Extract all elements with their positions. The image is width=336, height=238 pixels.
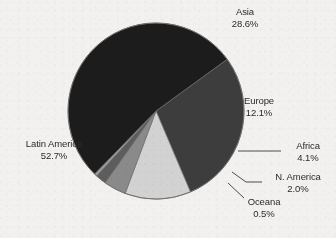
pie-chart: Asia 28.6% Europe 12.1% Africa 4.1% N. A… xyxy=(0,0,336,238)
slice-label-africa-name: Africa xyxy=(283,140,333,152)
slice-label-latin-america-value: 52.7% xyxy=(8,150,100,162)
slice-label-oceana-value: 0.5% xyxy=(238,208,290,220)
slice-label-latin-america-name: Latin America xyxy=(8,138,100,150)
slice-label-latin-america: Latin America 52.7% xyxy=(8,138,100,161)
slice-label-africa: Africa 4.1% xyxy=(283,140,333,163)
slice-label-n-america-value: 2.0% xyxy=(262,183,334,195)
slice-label-asia-name: Asia xyxy=(212,6,278,18)
slice-label-oceana: Oceana 0.5% xyxy=(238,196,290,219)
slice-label-europe-name: Europe xyxy=(228,95,290,107)
pie-slice-group xyxy=(68,23,244,199)
slice-label-asia: Asia 28.6% xyxy=(212,6,278,29)
slice-label-europe: Europe 12.1% xyxy=(228,95,290,118)
slice-label-asia-value: 28.6% xyxy=(212,18,278,30)
slice-label-n-america-name: N. America xyxy=(262,171,334,183)
leader-line-namerica xyxy=(232,172,262,182)
slice-label-oceana-name: Oceana xyxy=(238,196,290,208)
slice-label-europe-value: 12.1% xyxy=(228,107,290,119)
slice-label-n-america: N. America 2.0% xyxy=(262,171,334,194)
slice-label-africa-value: 4.1% xyxy=(283,152,333,164)
